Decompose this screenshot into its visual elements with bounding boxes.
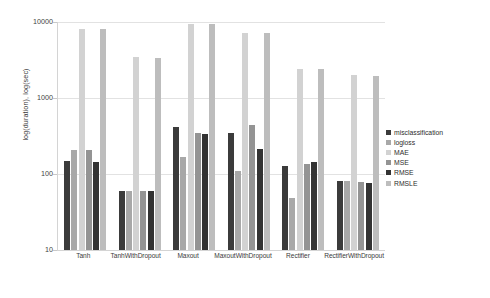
bar-group <box>113 22 168 250</box>
bar <box>337 181 343 250</box>
bar <box>351 75 357 250</box>
legend-label: MSE <box>394 159 409 166</box>
bar <box>202 134 208 250</box>
legend-label: RMSLE <box>394 180 417 187</box>
bar-groups <box>58 22 385 250</box>
y-tick-label: 10000 <box>13 17 53 26</box>
legend-label: misclassification <box>394 129 443 136</box>
bar <box>126 191 132 250</box>
bar <box>228 133 234 250</box>
bar <box>148 191 154 250</box>
bar <box>119 191 125 250</box>
legend-swatch-icon <box>386 130 391 135</box>
bar <box>242 33 248 250</box>
legend-label: RMSE <box>394 169 414 176</box>
bar <box>93 162 99 250</box>
y-tick-label: 100 <box>13 169 53 178</box>
legend-label: logloss <box>394 139 415 146</box>
bar <box>304 164 310 250</box>
bar <box>173 127 179 250</box>
legend-label: MAE <box>394 149 409 156</box>
bar <box>282 166 288 250</box>
bar <box>180 157 186 251</box>
y-tick-label: 10 <box>13 245 53 254</box>
bar <box>366 183 372 250</box>
bar <box>344 181 350 250</box>
legend-item[interactable]: misclassification <box>386 127 443 137</box>
bar <box>257 149 263 250</box>
bar <box>358 182 364 250</box>
bar <box>133 57 139 250</box>
legend-item[interactable]: MSE <box>386 158 443 168</box>
legend-item[interactable]: RMSLE <box>386 178 443 188</box>
bar <box>79 29 85 250</box>
y-tick-mark <box>53 250 57 251</box>
y-axis-title: log(duration), log(sec) <box>21 40 30 170</box>
chart-container: log(duration), log(sec) 10100100010000 T… <box>0 0 490 298</box>
legend-swatch-icon <box>386 181 391 186</box>
legend-item[interactable]: RMSE <box>386 168 443 178</box>
bar <box>188 24 194 250</box>
bar <box>86 150 92 250</box>
bar <box>264 33 270 250</box>
bar <box>249 125 255 250</box>
y-tick-label: 1000 <box>13 93 53 102</box>
legend-swatch-icon <box>386 140 391 145</box>
bar-group <box>58 22 113 250</box>
legend-swatch-icon <box>386 160 391 165</box>
x-tick-label: MaxoutWithDropout <box>214 252 271 259</box>
bar-group <box>276 22 331 250</box>
bar-group <box>222 22 277 250</box>
y-tick-mark <box>53 22 57 23</box>
bar <box>100 29 106 250</box>
bar-group <box>331 22 386 250</box>
bar <box>318 69 324 250</box>
bar-group <box>167 22 222 250</box>
bar <box>155 58 161 250</box>
bar <box>195 133 201 250</box>
x-tick-label: RectifierWithDropout <box>324 252 384 259</box>
legend-item[interactable]: MAE <box>386 147 443 157</box>
legend-swatch-icon <box>386 170 391 175</box>
x-tick-label: Rectifier <box>272 252 324 259</box>
bar <box>209 24 215 250</box>
x-tick-label: Maxout <box>162 252 214 259</box>
bar <box>140 191 146 250</box>
bar <box>71 150 77 250</box>
bar <box>373 76 379 250</box>
bar <box>311 162 317 250</box>
x-tick-label: TanhWithDropout <box>109 252 161 259</box>
bar <box>289 198 295 250</box>
y-tick-mark <box>53 174 57 175</box>
chart-legend: misclassificationloglossMAEMSERMSERMSLE <box>386 127 443 188</box>
x-tick-label: Tanh <box>57 252 109 259</box>
bar <box>235 171 241 250</box>
x-axis-labels: TanhTanhWithDropoutMaxoutMaxoutWithDropo… <box>57 252 384 259</box>
bar <box>64 161 70 250</box>
legend-swatch-icon <box>386 150 391 155</box>
bar <box>297 69 303 250</box>
legend-item[interactable]: logloss <box>386 137 443 147</box>
y-tick-mark <box>53 98 57 99</box>
plot-area <box>57 22 385 251</box>
